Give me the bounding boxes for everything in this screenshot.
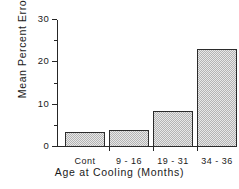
x-tick bbox=[109, 147, 110, 151]
y-tick-label: 30 bbox=[38, 13, 49, 24]
y-tick-label: 10 bbox=[38, 98, 49, 109]
bar-chart-figure: Mean Percent Errors 0 10 20 30 Cont bbox=[0, 0, 239, 189]
plot-area: 0 10 20 30 Cont 9 - 16 19 - 31 34 - 36 bbox=[57, 20, 229, 147]
x-tick-label-cont: Cont bbox=[74, 156, 95, 166]
x-tick-label-34-36: 34 - 36 bbox=[201, 156, 233, 166]
bar-9-16 bbox=[109, 130, 149, 147]
y-tick-major: 30 bbox=[52, 19, 57, 20]
bar-cont bbox=[65, 132, 105, 147]
bar-19-31 bbox=[153, 111, 193, 147]
x-tick bbox=[197, 147, 198, 151]
y-tick-label: 20 bbox=[38, 55, 49, 66]
x-tick-label-19-31: 19 - 31 bbox=[157, 156, 189, 166]
y-tick-major: 10 bbox=[52, 104, 57, 105]
x-tick-label-9-16: 9 - 16 bbox=[116, 156, 142, 166]
y-tick-major: 0 bbox=[52, 146, 57, 147]
y-tick-label: 0 bbox=[43, 140, 49, 151]
y-tick-minor bbox=[54, 125, 57, 126]
y-axis-line bbox=[57, 20, 58, 147]
x-tick bbox=[153, 147, 154, 151]
y-tick-major: 20 bbox=[52, 61, 57, 62]
x-axis-title: Age at Cooling (Months) bbox=[0, 166, 239, 178]
y-axis-title: Mean Percent Errors bbox=[16, 0, 28, 114]
y-tick-minor bbox=[54, 40, 57, 41]
y-tick-minor bbox=[54, 83, 57, 84]
bar-34-36 bbox=[197, 49, 237, 147]
